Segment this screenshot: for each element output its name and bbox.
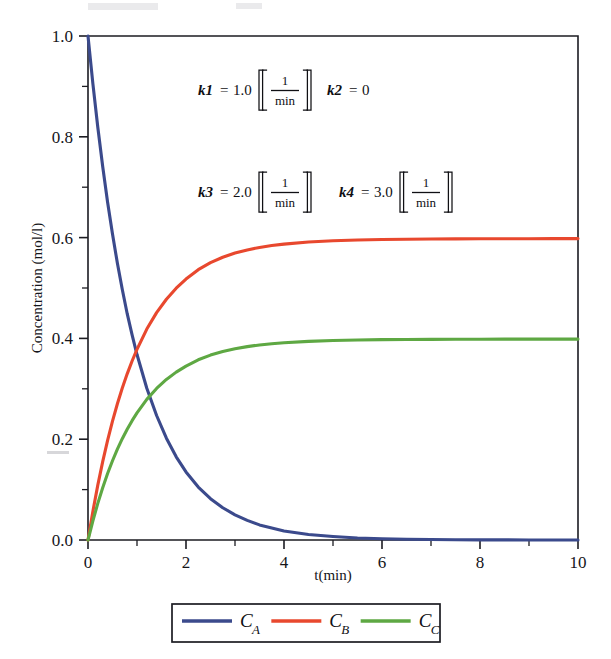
chart-legend: CACBCC	[172, 604, 440, 642]
rate-constant-value: 0	[362, 82, 370, 98]
rate-constant-value: 1.0	[233, 82, 252, 98]
x-tick-label: 4	[280, 553, 289, 572]
equals-sign: =	[361, 184, 369, 200]
legend-subscript-C_B: B	[341, 622, 349, 637]
equals-sign: =	[349, 82, 357, 98]
x-tick-label: 10	[570, 553, 587, 572]
x-tick-label: 8	[476, 553, 485, 572]
unit-denominator: min	[275, 195, 296, 210]
unit-numerator: 1	[282, 73, 289, 88]
x-axis-title: t(min)	[314, 567, 352, 584]
unit-numerator: 1	[423, 175, 430, 190]
y-tick-label: 0.0	[52, 531, 73, 550]
y-tick-label: 0.8	[52, 128, 73, 147]
equals-sign: =	[220, 184, 228, 200]
x-tick-label: 0	[84, 553, 93, 572]
rate-constant-symbol: k4	[339, 184, 355, 200]
legend-box	[172, 604, 440, 642]
y-axis-title: Concentration (mol/l)	[29, 223, 46, 353]
rate-constant-value: 3.0	[374, 184, 393, 200]
concentration-vs-time-chart: 0.00.20.40.60.81.0 0246810 Concentration…	[0, 0, 611, 659]
scan-artifact-top-left	[88, 3, 158, 10]
rate-constant-symbol: k3	[198, 184, 214, 200]
y-tick-label: 0.4	[52, 329, 74, 348]
x-tick-label: 6	[378, 553, 387, 572]
unit-numerator: 1	[282, 175, 289, 190]
rate-constant-symbol: k1	[198, 82, 213, 98]
unit-denominator: min	[416, 195, 437, 210]
scan-artifact-top-mid	[236, 3, 262, 9]
y-tick-label: 0.6	[52, 229, 73, 248]
equals-sign: =	[220, 82, 228, 98]
legend-subscript-C_C: C	[431, 622, 440, 637]
y-tick-label: 1.0	[52, 27, 73, 46]
annotation-k2: k2=0	[327, 82, 370, 98]
rate-constant-symbol: k2	[327, 82, 343, 98]
unit-denominator: min	[275, 93, 296, 108]
rate-constant-value: 2.0	[233, 184, 252, 200]
x-tick-label: 2	[182, 553, 191, 572]
scan-artifact-left-axis	[47, 451, 69, 454]
y-tick-label: 0.2	[52, 430, 73, 449]
legend-subscript-C_A: A	[251, 622, 260, 637]
